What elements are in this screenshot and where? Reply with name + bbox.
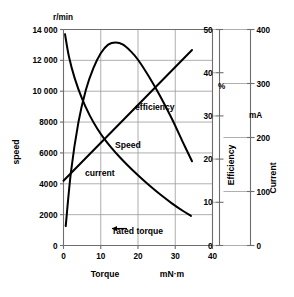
- ticklabel-efficiency: 40: [203, 69, 213, 78]
- series-label-speed: Speed: [115, 140, 141, 150]
- motor-performance-chart: 0200040006000800010 00012 00014 00001020…: [0, 0, 294, 297]
- ticklabel-efficiency: 30: [203, 112, 213, 121]
- ticklabel-efficiency: 20: [203, 155, 213, 164]
- ticklabel-torque: 40: [208, 252, 218, 261]
- ticklabel-efficiency: 50: [203, 26, 213, 35]
- x-axis-title: Torque: [91, 269, 120, 279]
- speed-unit-label: r/min: [53, 13, 73, 22]
- ticklabel-efficiency: 0: [208, 242, 213, 251]
- x-axis-unit: mN·m: [160, 269, 185, 279]
- ticklabel-speed: 0: [53, 242, 58, 251]
- series-label-efficiency: efficiency: [135, 102, 175, 112]
- ticklabel-speed: 8000: [39, 118, 58, 127]
- ticklabel-current: 400: [257, 26, 271, 35]
- ticklabel-torque: 20: [133, 252, 143, 261]
- ticklabel-speed: 6000: [39, 149, 58, 158]
- efficiency-axis-title: Efficiency: [226, 144, 236, 185]
- ticklabel-torque: 10: [96, 252, 106, 261]
- efficiency-unit-label: %: [218, 82, 226, 91]
- ticklabel-current: 300: [257, 80, 271, 89]
- current-unit-label: mA: [249, 111, 262, 120]
- ticklabel-torque: 30: [171, 252, 181, 261]
- ticklabel-speed: 4000: [39, 180, 58, 189]
- chart-canvas: 0200040006000800010 00012 00014 00001020…: [0, 0, 294, 297]
- ticklabel-torque: 0: [61, 252, 66, 261]
- series-label-current: current: [85, 168, 115, 178]
- current-axis-title: Current: [268, 162, 278, 193]
- speed-axis-title: speed: [11, 140, 21, 165]
- ticklabel-speed: 12 000: [32, 56, 57, 65]
- rated-torque-label: rated torque: [113, 226, 163, 236]
- ticklabel-speed: 10 000: [32, 87, 57, 96]
- ticklabel-current: 200: [257, 134, 271, 143]
- ticklabel-efficiency: 10: [203, 198, 213, 207]
- ticklabel-current: 0: [257, 242, 262, 251]
- ticklabel-speed: 14 000: [32, 26, 57, 35]
- ticklabel-speed: 2000: [39, 211, 58, 220]
